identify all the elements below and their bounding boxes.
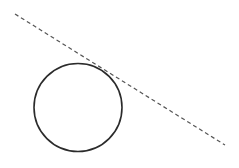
circle	[34, 64, 122, 152]
dashed-tangent-line	[15, 14, 225, 145]
diagram-canvas	[0, 0, 239, 168]
